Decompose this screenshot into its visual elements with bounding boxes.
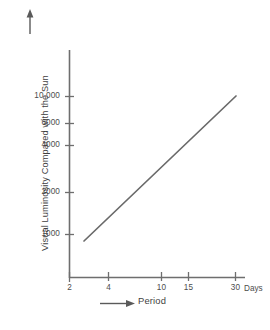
x-axis-unit-label: Days bbox=[244, 284, 263, 293]
x-tick-label-10: 10 bbox=[151, 284, 172, 292]
y-tick-label-1000: 1000 bbox=[12, 230, 60, 238]
x-tick-label-2: 2 bbox=[59, 284, 80, 292]
y-axis-title: Visual Luminosity Compared with the Sun bbox=[40, 38, 50, 288]
x-tick-label-15: 15 bbox=[178, 284, 199, 292]
arrow-right-icon bbox=[126, 300, 135, 307]
x-tick-label-4: 4 bbox=[98, 284, 119, 292]
data-series-line bbox=[84, 96, 236, 241]
x-tick-label-30: 30 bbox=[225, 284, 246, 292]
y-tick-label-2000: 2000 bbox=[12, 188, 60, 196]
arrow-up-icon bbox=[27, 9, 34, 18]
x-axis-title: Period bbox=[138, 295, 166, 306]
y-tick-label-4000: 4000 bbox=[12, 141, 60, 149]
period-luminosity-chart: 10 000 6000 4000 2000 1000 2 4 10 15 30 … bbox=[0, 0, 270, 330]
y-tick-label-6000: 6000 bbox=[12, 119, 60, 127]
y-tick-label-10000: 10 000 bbox=[12, 92, 60, 100]
